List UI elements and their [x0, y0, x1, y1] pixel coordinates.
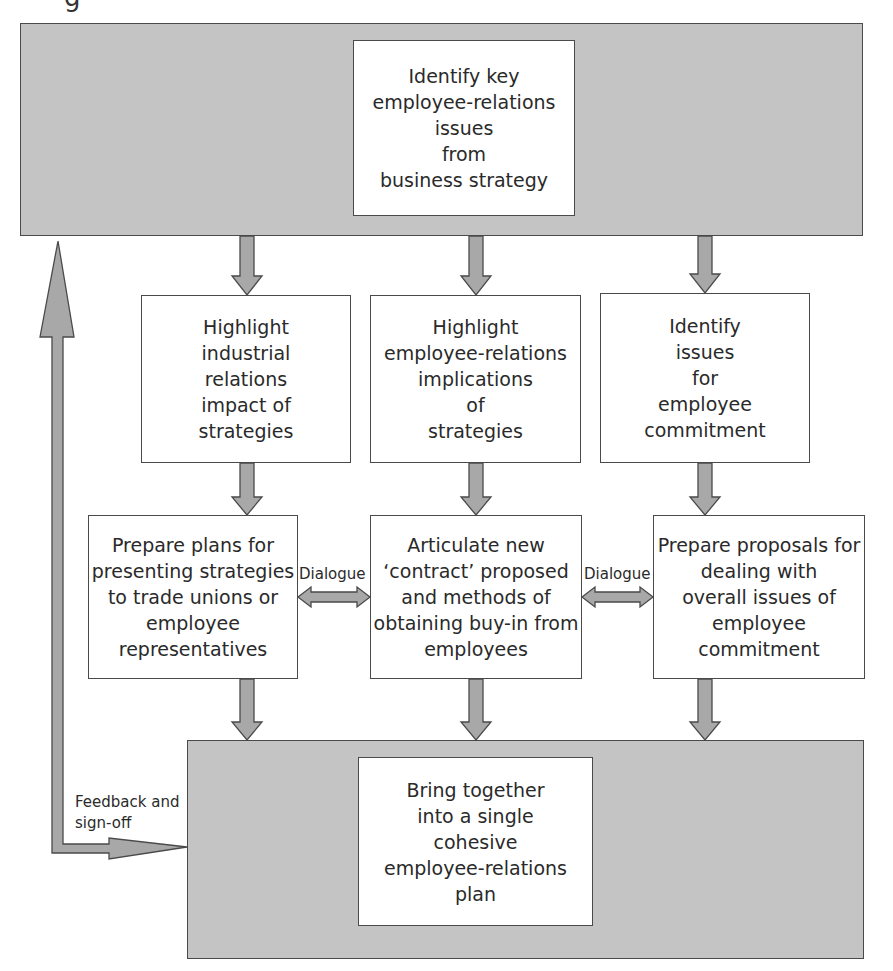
down-arrow-icon — [461, 236, 491, 295]
down-arrow-icon — [461, 463, 491, 515]
down-arrow-icon — [232, 236, 262, 295]
flow-arrows: .ar { fill: #a8a8a8; stroke: #4a4a4a; st… — [0, 0, 893, 971]
down-arrow-icon — [461, 679, 491, 740]
down-arrow-icon — [690, 236, 720, 293]
double-arrow-icon — [298, 587, 370, 607]
double-arrow-icon — [582, 587, 653, 607]
down-arrow-icon — [232, 463, 262, 515]
down-arrow-icon — [690, 679, 720, 740]
down-arrow-icon — [232, 679, 262, 740]
feedback-loop-arrow-icon — [40, 241, 187, 859]
down-arrow-icon — [690, 463, 720, 515]
